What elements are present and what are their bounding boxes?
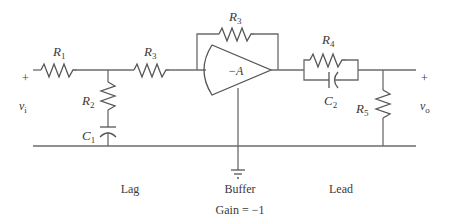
section-label-buffer: Buffer (224, 182, 255, 196)
resistor-r1: R1 (41, 44, 77, 77)
c1-label: C1 (82, 128, 95, 145)
output-terminal: + vo (420, 71, 430, 115)
resistor-zigzag-icon (134, 64, 169, 77)
resistor-zigzag-icon (41, 64, 77, 77)
section-label-lead: Lead (329, 182, 353, 196)
output-plus-sign: + (421, 71, 428, 85)
lead-network: R4 C2 R5 (304, 32, 416, 146)
buffer-gain-label: Gain = −1 (216, 203, 265, 217)
input-plus-sign: + (22, 71, 29, 85)
r3-feedback-label: R3 (228, 9, 242, 26)
output-voltage-label: vo (420, 99, 430, 115)
ground-icon (231, 170, 245, 178)
r3-input-label: R3 (143, 44, 157, 61)
r5-label: R5 (355, 101, 369, 118)
amplifier-buffer: R3 −A (197, 9, 304, 178)
resistor-r4 (310, 54, 346, 67)
input-terminal: + vi (19, 71, 29, 115)
shunt-branch-r2-c1: R2 C1 (81, 70, 116, 146)
resistor-r3-feedback (219, 28, 254, 41)
amp-gain-label: −A (228, 64, 244, 78)
c2-label: C2 (324, 93, 337, 110)
r1-label: R1 (52, 44, 65, 61)
resistor-r2 (101, 82, 115, 110)
r4-label: R4 (321, 32, 335, 49)
resistor-r3-input: R3 (134, 44, 169, 77)
circuit-diagram: + vi R1 R2 C1 R3 R3 −A (0, 0, 449, 224)
r2-label: R2 (81, 93, 94, 110)
resistor-r5 (376, 90, 390, 118)
section-label-lag: Lag (121, 182, 140, 196)
input-voltage-label: vi (19, 99, 27, 115)
